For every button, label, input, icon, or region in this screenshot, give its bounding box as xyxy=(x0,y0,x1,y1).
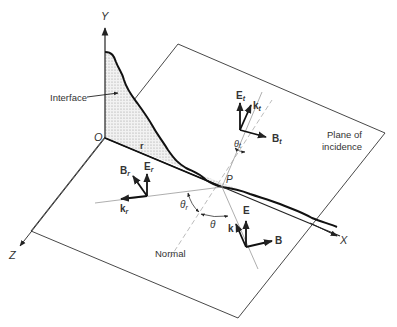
reflected-k-label: kr xyxy=(120,203,130,215)
incident-b-label: B xyxy=(275,235,282,246)
normal-label: Normal xyxy=(155,248,186,259)
transmitted-b-label: Bt xyxy=(272,133,282,145)
incident-e-label: E xyxy=(243,205,250,216)
transmitted-e-label: Et xyxy=(236,90,246,102)
z-axis-label: Z xyxy=(8,249,17,261)
reflection-refraction-diagram: Y X Z O Interface Plane of incidence Nor… xyxy=(0,0,397,327)
incident-k-label: k xyxy=(228,223,234,234)
reflected-fields xyxy=(121,174,147,199)
incident-fields xyxy=(236,221,272,247)
reflected-e-label: Er xyxy=(144,161,155,173)
x-axis-label: X xyxy=(339,234,348,246)
transmitted-theta-label: θt xyxy=(234,139,242,149)
incident-theta-label: θ xyxy=(210,219,216,230)
transmitted-k-label: kt xyxy=(253,100,262,112)
reflected-theta-label: θr xyxy=(180,199,188,211)
interface-label: Interface xyxy=(50,92,87,103)
r-vector-label: r xyxy=(140,141,144,151)
point-p-label: P xyxy=(226,174,233,185)
origin-label: O xyxy=(94,131,103,143)
y-axis-label: Y xyxy=(101,10,109,22)
z-axis xyxy=(20,138,105,246)
reflected-b-label: Br xyxy=(120,165,131,177)
interface-region xyxy=(105,52,337,227)
plane-label-line2: incidence xyxy=(322,141,362,152)
plane-label-line1: Plane of xyxy=(327,129,362,140)
